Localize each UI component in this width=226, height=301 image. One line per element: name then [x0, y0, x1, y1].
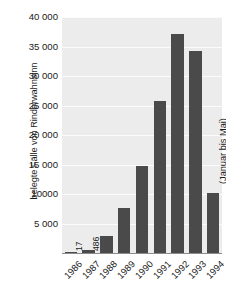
plot-area: 17486(Januar bis Mai): [62, 17, 222, 253]
y-axis-tick-label: 15 000: [0, 160, 58, 170]
bar: [100, 236, 113, 253]
bar: [171, 34, 184, 253]
y-axis-tick-labels: 5 0001000015 00020 00025 00030 00035 000…: [0, 0, 58, 301]
y-axis-tick-label: 35 000: [0, 42, 58, 52]
gridline: [62, 17, 222, 18]
y-axis-tick-label: 25 000: [0, 101, 58, 111]
bar-chart: belegte Fälle von Rinderwahnsinn 5 00010…: [0, 0, 226, 301]
bar-annotation: (Januar bis Mai): [218, 118, 226, 184]
y-axis-tick-label: 40 000: [0, 12, 58, 22]
x-axis-tick-labels: 198619871988198919901991199219931994: [62, 253, 226, 301]
y-axis-tick-label: 5 000: [0, 219, 58, 229]
y-axis-tick-label: 10000: [0, 189, 58, 199]
gridline: [62, 47, 222, 48]
y-axis-tick-label: 20 000: [0, 130, 58, 140]
bar: [207, 193, 220, 253]
bar: [118, 208, 131, 253]
bar: [136, 166, 149, 253]
bar: [189, 51, 202, 253]
y-axis-tick-label: 30 000: [0, 71, 58, 81]
bar: [154, 101, 167, 253]
